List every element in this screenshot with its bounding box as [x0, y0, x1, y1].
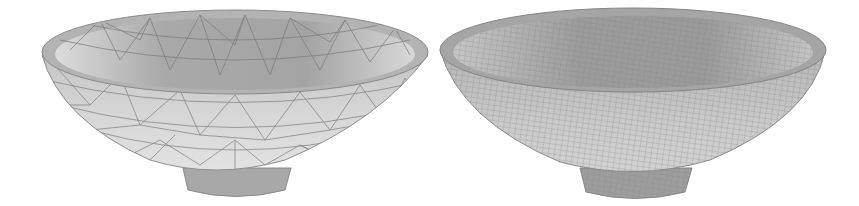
coarse-mesh-bowl-render — [0, 0, 430, 206]
coarse-mesh-bowl-panel: Coarse triangular mesh bowl — [0, 0, 430, 206]
fine-mesh-bowl-panel: Fine quadrilateral-dominant mesh bowl — [430, 0, 859, 206]
fine-mesh-bowl-render — [430, 0, 859, 206]
